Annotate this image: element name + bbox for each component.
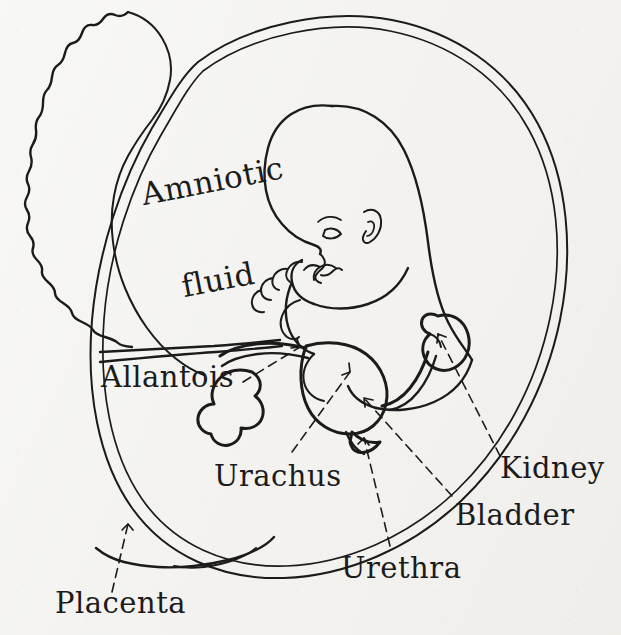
label-kidney: Kidney [500,453,605,484]
label-amniotic-fluid-line2: fluid [179,248,305,304]
kidney-shape [421,314,469,370]
label-placenta: Placenta [55,588,186,619]
label-amniotic-fluid-line1: Amniotic [139,151,287,211]
label-urethra: Urethra [341,553,461,584]
anatomical-figure: .ink { fill:none; stroke:#1b1b1b; stroke… [0,0,621,635]
leader-urethra [364,438,390,546]
bladder-shape [301,343,387,454]
label-allantois: Allantois [101,362,234,393]
label-urachus: Urachus [214,461,342,492]
label-bladder: Bladder [455,500,575,531]
